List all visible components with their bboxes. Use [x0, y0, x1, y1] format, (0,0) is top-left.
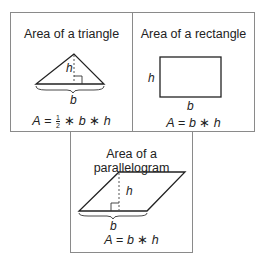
formula-var: b [189, 116, 196, 130]
triangle-panel: Area of a triangle h b A = 12 ∗ b ∗ h [10, 12, 133, 132]
one-half-fraction: 12 [56, 114, 60, 129]
triangle-formula: A = 12 ∗ b ∗ h [11, 113, 132, 129]
rectangle-formula: A = b ∗ h [133, 115, 254, 130]
formula-lhs: A [104, 233, 112, 247]
formula-var: b [127, 233, 134, 247]
formula-var: h [152, 233, 159, 247]
formula-op: ∗ [199, 116, 210, 130]
formula-lhs: A [32, 114, 40, 128]
formula-var: b [79, 114, 86, 128]
formula-lhs: A [166, 116, 174, 130]
formula-op: ∗ [137, 233, 148, 247]
triangle-base-label: b [70, 93, 77, 107]
triangle-height-label: h [66, 61, 73, 75]
formula-op: ∗ [89, 114, 100, 128]
parallelogram-panel: Area of a parallelogram h b A = b ∗ h [70, 131, 193, 253]
formula-eq: = [44, 114, 51, 128]
rectangle-panel: Area of a rectangle h b A = b ∗ h [132, 12, 255, 132]
formula-eq: = [178, 116, 185, 130]
parallelogram-base-label: b [110, 219, 117, 233]
parallelogram-height-label: h [126, 184, 133, 198]
formula-eq: = [116, 233, 123, 247]
rectangle-height-label: h [148, 71, 155, 85]
formula-var: h [104, 114, 111, 128]
formula-var: h [214, 116, 221, 130]
rectangle-base-label: b [187, 99, 194, 113]
parallelogram-formula: A = b ∗ h [71, 232, 192, 247]
formula-op: ∗ [64, 114, 75, 128]
